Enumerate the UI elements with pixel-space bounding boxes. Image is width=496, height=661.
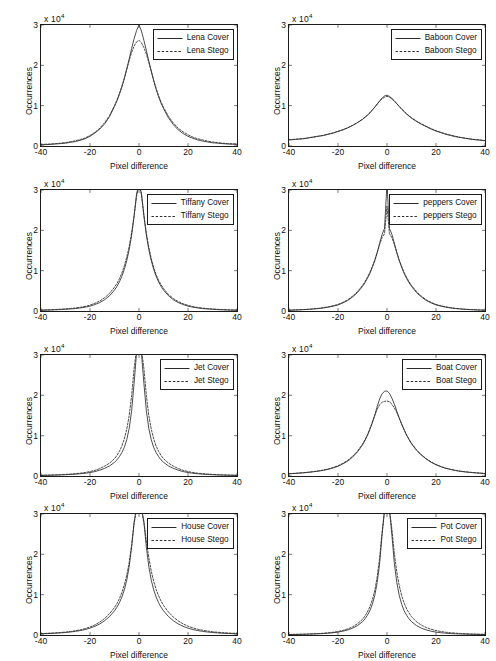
legend-label: Lena Stego [187,47,229,55]
exponent-power: 4 [61,501,65,508]
legend-entry: Pot Stego [411,534,477,546]
legend-entry: Baboon Stego [395,45,477,57]
legend-house: House CoverHouse Stego [147,518,234,549]
x-tick-label: 20 [431,478,440,487]
x-tick-label: -40 [35,637,47,646]
legend-entry: Tiffany Stego [151,210,229,222]
exponent-prefix: x 10 [44,503,61,513]
y-axis-title: Occurrences [24,41,34,141]
solid-line-icon [411,524,437,531]
legend-boat: Boat CoverBoat Stego [402,359,482,390]
y-axis-exponent-label: x 104 [292,177,313,189]
legend-entry: Tiffany Cover [151,197,229,209]
axes-box: 0123-40-2002040Jet CoverJet Stego [40,354,238,477]
x-tick-label: -20 [332,478,344,487]
solid-line-icon [151,200,177,207]
y-tick-label: 3 [33,186,38,195]
legend-entry: Boat Cover [406,362,477,374]
y-tick-label: 2 [281,226,286,235]
y-axis-exponent-label: x 104 [44,177,65,189]
y-axis-title: Occurrences [272,206,282,306]
legend-label: Lena Cover [187,34,229,42]
y-tick-label: 1 [281,101,286,110]
axes-box: 0123-40-2002040Pot CoverPot Stego [288,513,486,636]
exponent-prefix: x 10 [292,179,309,189]
exponent-prefix: x 10 [44,179,61,189]
x-tick-label: 40 [480,313,489,322]
x-tick-label: 20 [183,637,192,646]
solid-line-icon [395,35,421,42]
x-tick-label: 20 [431,637,440,646]
dotted-line-icon [395,48,421,55]
y-axis-exponent-label: x 104 [44,12,65,24]
y-axis-exponent-label: x 104 [292,12,313,24]
y-tick-label: 2 [33,550,38,559]
plot-panel-house: x 104OccurrencesPixel difference0123-40-… [0,497,248,661]
y-axis-exponent-label: x 104 [292,501,313,513]
exponent-power: 4 [61,177,65,184]
y-axis-exponent-label: x 104 [292,342,313,354]
x-tick-label: -20 [84,313,96,322]
legend-lena: Lena CoverLena Stego [153,29,234,60]
legend-label: Boat Cover [436,364,477,372]
legend-label: peppers Stego [423,212,476,220]
figure-container: x 104OccurrencesPixel difference0123-40-… [0,0,496,661]
legend-entry: Lena Stego [157,45,229,57]
x-tick-label: -40 [35,313,47,322]
exponent-power: 4 [61,12,65,19]
y-axis-title: Occurrences [24,206,34,306]
x-tick-label: 20 [183,478,192,487]
x-axis-title: Pixel difference [284,326,490,336]
y-axis-title: Occurrences [272,371,282,471]
solid-line-icon [164,365,190,372]
dotted-line-icon [406,378,432,385]
x-tick-label: -40 [283,637,295,646]
plot-panel-jet: x 104OccurrencesPixel difference0123-40-… [0,338,248,503]
legend-entry: House Cover [151,521,229,533]
legend-baboon: Baboon CoverBaboon Stego [391,29,482,60]
exponent-power: 4 [309,501,313,508]
x-tick-label: -40 [35,478,47,487]
legend-label: House Cover [181,523,229,531]
y-tick-label: 1 [281,266,286,275]
x-tick-label: 40 [232,313,241,322]
x-tick-label: 0 [137,148,142,157]
y-tick-label: 3 [33,351,38,360]
x-axis-title: Pixel difference [36,161,242,171]
x-tick-label: 20 [431,148,440,157]
legend-label: Tiffany Cover [181,199,229,207]
plot-panel-boat: x 104OccurrencesPixel difference0123-40-… [248,338,496,503]
y-tick-label: 2 [33,391,38,400]
dotted-line-icon [157,48,183,55]
x-tick-label: -20 [84,637,96,646]
y-tick-label: 3 [281,21,286,30]
x-tick-label: 20 [183,313,192,322]
legend-entry: House Stego [151,534,229,546]
y-axis-exponent-label: x 104 [44,342,65,354]
y-tick-label: 2 [33,226,38,235]
x-tick-label: 0 [385,313,390,322]
x-tick-label: 40 [480,148,489,157]
plot-panel-baboon: x 104OccurrencesPixel difference0123-40-… [248,8,496,173]
legend-tiffany: Tiffany CoverTiffany Stego [147,194,234,225]
x-tick-label: -20 [332,637,344,646]
x-tick-label: 0 [137,637,142,646]
y-axis-title: Occurrences [272,530,282,630]
x-tick-label: 20 [183,148,192,157]
solid-line-icon [393,200,419,207]
y-tick-label: 2 [33,61,38,70]
plot-panel-peppers: x 104OccurrencesPixel difference0123-40-… [248,173,496,338]
y-axis-exponent-label: x 104 [44,501,65,513]
legend-label: Tiffany Stego [181,212,229,220]
x-tick-label: 0 [137,313,142,322]
y-tick-label: 1 [33,101,38,110]
legend-entry: peppers Cover [393,197,477,209]
legend-entry: Baboon Cover [395,32,477,44]
legend-peppers: peppers Coverpeppers Stego [389,194,482,225]
x-tick-label: -20 [332,148,344,157]
legend-entry: Lena Cover [157,32,229,44]
x-tick-label: 40 [232,478,241,487]
y-tick-label: 3 [281,510,286,519]
dotted-line-icon [151,213,177,220]
legend-entry: Jet Stego [164,375,229,387]
